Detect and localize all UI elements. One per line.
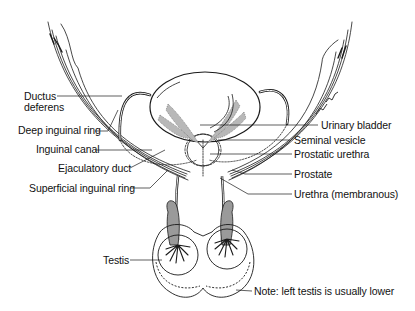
epididymis	[167, 201, 233, 245]
label-superficial-inguinal-ring: Superficial inguinal ring	[29, 183, 135, 194]
label-note-left-testis: Note: left testis is usually lower	[254, 286, 394, 297]
spermatic-cords-descending	[176, 176, 223, 240]
label-inguinal-canal: Inguinal canal	[36, 144, 99, 155]
scrotum	[153, 225, 254, 298]
left-ductus-deferens	[120, 93, 150, 140]
label-urethra-membranous: Urethra (membranous)	[294, 189, 398, 200]
label-urinary-bladder: Urinary bladder	[321, 120, 391, 131]
urinary-bladder-shape	[150, 72, 260, 142]
left-spermatic-cord	[48, 22, 190, 180]
label-testis: Testis	[103, 255, 129, 266]
anatomy-diagram: Ductus deferens Deep inguinal ring Ingui…	[0, 0, 415, 311]
label-ejaculatory-duct: Ejaculatory duct	[58, 163, 131, 174]
right-ductus-deferens	[260, 90, 288, 124]
label-deep-inguinal-ring: Deep inguinal ring	[18, 125, 101, 136]
label-prostatic-urethra: Prostatic urethra	[294, 149, 369, 160]
label-prostate: Prostate	[294, 169, 332, 180]
label-seminal-vesicle: Seminal vesicle	[294, 135, 365, 146]
label-ductus-deferens-line2: deferens	[24, 102, 64, 113]
